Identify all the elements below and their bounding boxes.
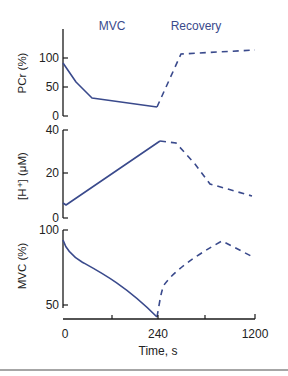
h-tick-20: 20	[46, 166, 60, 180]
x-tick-1200: 1200	[242, 327, 269, 341]
mvc-tick-100: 100	[39, 223, 59, 237]
phase-label-recovery: Recovery	[171, 19, 222, 33]
x-axis: 0 240 1200 Time, s	[62, 314, 269, 358]
mvc-mvc-line	[63, 240, 157, 317]
pcr-y-label: PCr (%)	[16, 52, 28, 93]
pcr-mvc-line	[63, 63, 157, 107]
mvc-y-label: MVC (%)	[16, 243, 28, 290]
mvc-tick-50: 50	[46, 298, 60, 312]
mvc-recovery-line	[157, 241, 253, 317]
pcr-tick-0: 0	[52, 109, 59, 123]
pcr-tick-100: 100	[39, 51, 59, 65]
pcr-tick-50: 50	[46, 80, 60, 94]
h-y-label: [H⁺] (μM)	[16, 152, 28, 200]
h-recovery-line	[160, 141, 252, 196]
h-tick-40: 40	[46, 123, 60, 137]
x-tick-0: 0	[62, 327, 69, 341]
x-tick-240: 240	[148, 327, 168, 341]
figure: MVC Recovery 100 50 0 PCr (%) 40 20 0 [H…	[0, 0, 288, 376]
pcr-panel: 100 50 0 PCr (%)	[16, 29, 255, 123]
x-axis-label: Time, s	[139, 344, 178, 358]
pcr-recovery-line	[157, 50, 255, 107]
h-panel: 40 20 0 [H⁺] (μM)	[16, 123, 252, 225]
phase-label-mvc: MVC	[99, 19, 126, 33]
h-mvc-line	[63, 141, 160, 205]
mvc-panel: 100 50 MVC (%)	[16, 223, 253, 317]
